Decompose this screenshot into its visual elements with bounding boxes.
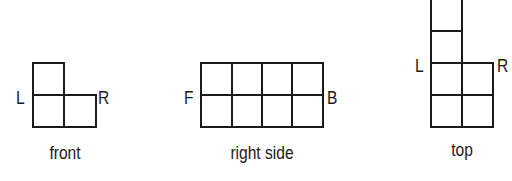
top-cell [430, 62, 463, 96]
right-side-cell [261, 62, 293, 96]
top-cell [461, 94, 494, 128]
right-side-cell [200, 62, 233, 96]
top-cell [430, 0, 463, 32]
top-caption: top [436, 140, 488, 160]
top-cell [430, 94, 463, 128]
right-side-cell [291, 62, 324, 96]
right-side-left-label: F [184, 88, 194, 108]
right-side-cell [200, 94, 233, 128]
top-cell [461, 62, 494, 96]
top-right-label: R [497, 56, 508, 76]
front-right-label: R [98, 88, 109, 108]
front-left-label: L [16, 88, 25, 108]
front-cell [32, 62, 65, 96]
right-side-caption: right side [221, 143, 303, 163]
front-caption: front [36, 143, 93, 163]
top-left-label: L [415, 56, 424, 76]
front-cell [63, 94, 97, 128]
right-side-cell [231, 62, 263, 96]
front-cell [32, 94, 65, 128]
right-side-cell [291, 94, 324, 128]
right-side-cell [261, 94, 293, 128]
right-side-cell [231, 94, 263, 128]
right-side-right-label: B [327, 88, 337, 108]
top-cell [430, 30, 463, 64]
